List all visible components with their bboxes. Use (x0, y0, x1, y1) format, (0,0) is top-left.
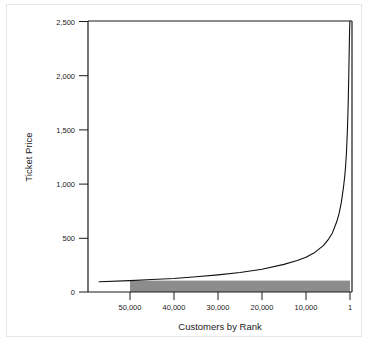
shaded-revenue-region (130, 281, 350, 292)
y-tick-label-500: 500 (62, 234, 75, 243)
y-tick-label-1000: 1,000 (56, 180, 75, 189)
x-tick-label-40000: 40,000 (163, 303, 186, 312)
demand-curve-chart: 2,500 2,000 1,500 1,000 500 0 50,000 40,… (0, 0, 370, 344)
x-tick-label-20000: 20,000 (251, 303, 274, 312)
y-tick-label-1500: 1,500 (56, 126, 75, 135)
x-axis-ticks (130, 292, 350, 300)
y-tick-label-2500: 2,500 (56, 18, 75, 27)
x-tick-label-50000: 50,000 (119, 303, 142, 312)
plot-area-background (88, 21, 352, 292)
y-tick-label-0: 0 (71, 288, 75, 297)
x-tick-label-10000: 10,000 (295, 303, 318, 312)
y-tick-label-2000: 2,000 (56, 72, 75, 81)
x-tick-label-30000: 30,000 (207, 303, 230, 312)
x-tick-label-1: 1 (348, 303, 352, 312)
y-axis-title: Ticket Price (23, 132, 34, 181)
y-axis-ticks (79, 22, 88, 293)
chart-figure: 2,500 2,000 1,500 1,000 500 0 50,000 40,… (0, 0, 370, 344)
x-axis-title: Customers by Rank (178, 321, 262, 332)
